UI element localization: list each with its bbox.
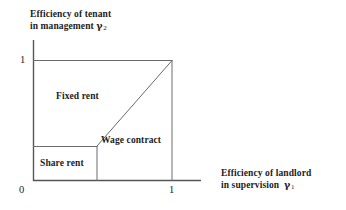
- gamma-subscript-y: 2: [103, 24, 107, 32]
- origin-tick-label-0: 0: [19, 184, 24, 195]
- y-axis-caption-line-1: Efficiency of tenant: [30, 9, 111, 19]
- y-axis-caption-line-2: in management γ2: [30, 20, 111, 34]
- region-diagram-figure: Efficiency of tenant in management γ2 Ef…: [0, 0, 346, 210]
- x-axis-caption-line-2: in supervision γ1: [221, 179, 311, 193]
- x-axis-caption: Efficiency of landlord in supervision γ1: [221, 167, 311, 193]
- y-axis-caption: Efficiency of tenant in management γ2: [30, 8, 111, 34]
- region-label-fixed-rent: Fixed rent: [56, 90, 99, 102]
- region-label-wage-contract: Wage contract: [101, 134, 161, 146]
- region-label-share-rent: Share rent: [40, 157, 84, 169]
- gamma-subscript-x: 1: [290, 183, 294, 191]
- x-axis-tick-label-1: 1: [169, 184, 174, 195]
- gamma-symbol-y: γ: [96, 20, 102, 31]
- y-axis-tick-label-1: 1: [20, 54, 25, 65]
- x-axis-caption-line-1: Efficiency of landlord: [221, 168, 311, 178]
